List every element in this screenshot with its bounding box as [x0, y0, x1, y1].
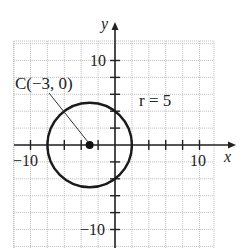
radius-label: r = 5	[139, 91, 171, 110]
coordinate-plane: x y −10 10 10 −10 C(−3, 0) r = 5	[0, 0, 249, 248]
center-point	[86, 141, 94, 149]
x-tick-label-neg10: −10	[13, 152, 38, 169]
x-axis-label: x	[223, 148, 231, 165]
y-tick-label-neg10: −10	[80, 221, 105, 238]
y-axis-arrow-icon	[112, 22, 119, 30]
y-tick-label-10: 10	[90, 52, 106, 69]
y-axis-label: y	[99, 15, 109, 33]
center-label: C(−3, 0)	[15, 74, 73, 93]
x-tick-label-10: 10	[190, 152, 206, 169]
center-leader-line	[49, 93, 88, 142]
circle-graph-figure: x y −10 10 10 −10 C(−3, 0) r = 5	[0, 0, 249, 248]
